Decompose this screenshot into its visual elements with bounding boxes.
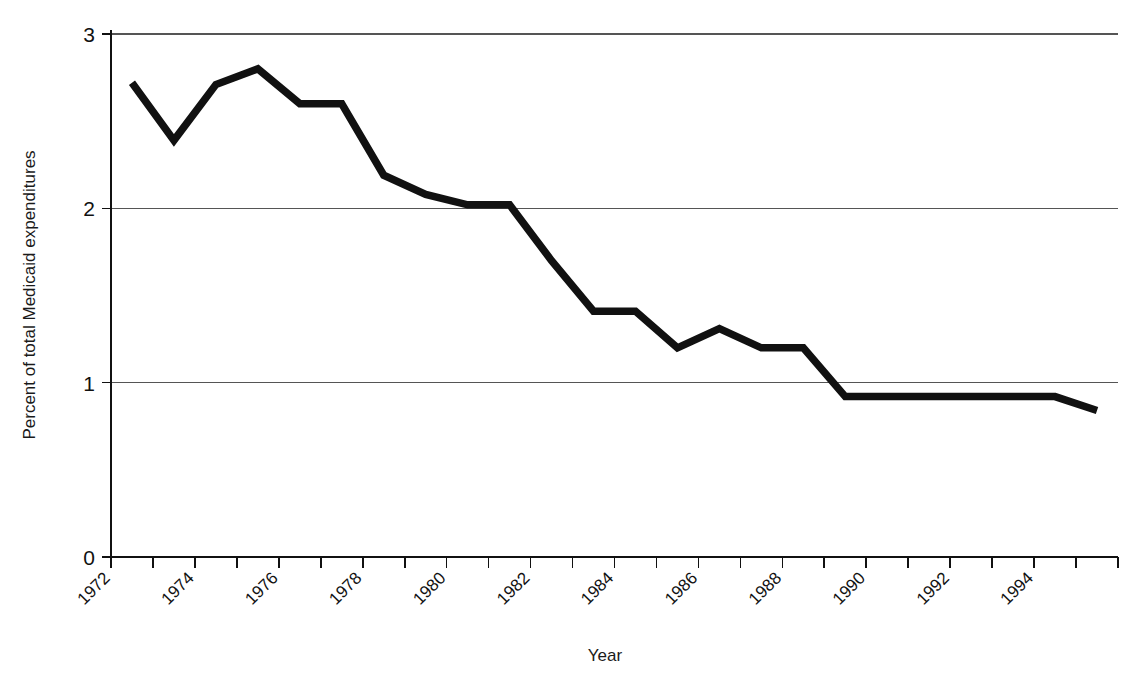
y-tick-label: 0 (83, 546, 95, 569)
x-tick-label: 1972 (74, 568, 114, 608)
x-tick-label: 1992 (913, 568, 953, 608)
x-tick-marks-group (111, 557, 1118, 568)
x-tick-label: 1994 (997, 568, 1037, 608)
y-tick-label: 1 (83, 372, 95, 395)
y-tick-label: 3 (83, 23, 95, 46)
line-chart: 0123 19721974197619781980198219841986198… (0, 0, 1144, 683)
x-tick-label: 1990 (829, 568, 869, 608)
chart-page: 0123 19721974197619781980198219841986198… (0, 0, 1144, 683)
x-tick-labels-group: 1972197419761978198019821984198619881990… (74, 568, 1037, 608)
y-tick-labels-group: 0123 (83, 23, 95, 569)
y-tick-label: 2 (83, 197, 95, 220)
x-tick-label: 1978 (325, 568, 365, 608)
x-tick-label: 1988 (745, 568, 785, 608)
x-tick-label: 1984 (577, 568, 617, 608)
y-axis-title: Percent of total Medicaid expenditures (20, 150, 39, 439)
x-tick-label: 1974 (158, 568, 198, 608)
x-tick-label: 1980 (409, 568, 449, 608)
x-tick-label: 1982 (493, 568, 533, 608)
gridlines-group (102, 34, 1118, 557)
x-tick-label: 1976 (241, 568, 281, 608)
x-axis-title: Year (588, 646, 623, 665)
data-series-line (132, 69, 1097, 411)
x-tick-label: 1986 (661, 568, 701, 608)
